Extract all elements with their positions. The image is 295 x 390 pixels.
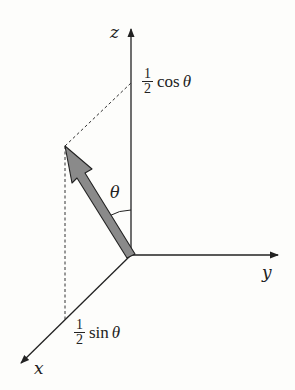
spin-vector-diagram: z y x θ 12 cos θ 12 sin θ [0,0,295,390]
z-projection-label: 12 cos θ [142,67,191,96]
x-axis-label: x [34,358,44,378]
z-axis-label: z [110,22,119,42]
axes-drawing [0,0,295,390]
z-projection-dashed-line [65,83,131,146]
theta-label: θ [110,183,120,202]
spin-vector-arrow [65,146,135,258]
theta-arc [109,210,131,216]
x-projection-label: 12 sin θ [74,318,120,347]
y-axis-label: y [262,262,272,282]
